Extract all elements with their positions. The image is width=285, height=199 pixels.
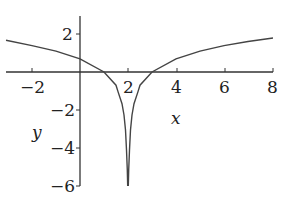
x-tick-label: 2	[123, 77, 134, 97]
x-axis-label: x	[171, 108, 181, 128]
y-tick-label: −2	[50, 100, 75, 120]
x-tick-label: 6	[219, 77, 230, 97]
y-axis-label: y	[31, 122, 42, 142]
y-tick-label: −4	[50, 138, 75, 158]
chart: −2 2 4 6 8 2 −2 −4 −6 x y	[0, 0, 285, 199]
y-tick-label: −6	[50, 176, 75, 196]
curve-right-branch	[128, 38, 273, 186]
x-tick-label: −2	[20, 77, 45, 97]
y-tick-label: 2	[62, 24, 73, 44]
x-tick-label: 4	[171, 77, 182, 97]
x-tick-label: 8	[267, 77, 278, 97]
